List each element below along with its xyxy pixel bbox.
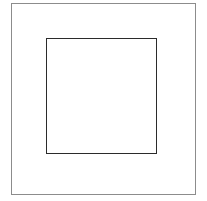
figure-canvas [0, 0, 207, 201]
inner-square-shape [46, 38, 157, 154]
